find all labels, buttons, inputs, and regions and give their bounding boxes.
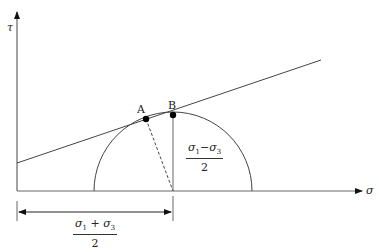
- sigma-axis-label: σ: [366, 185, 374, 196]
- radius-fraction-label: σ1−σ3 2: [186, 141, 223, 174]
- radius-to-a-dashed: [146, 119, 173, 191]
- point-a: [143, 116, 149, 122]
- center-fraction-label: σ1 + σ3 2: [73, 217, 117, 250]
- mohr-circle-diagram: τ σ A B σ1−σ3 2 σ1 + σ3 2: [0, 0, 379, 252]
- tau-axis-label: τ: [7, 22, 13, 33]
- point-b-label: B: [168, 100, 176, 111]
- diagram-canvas: [0, 0, 379, 252]
- point-a-label: A: [137, 104, 145, 115]
- point-b: [170, 112, 176, 118]
